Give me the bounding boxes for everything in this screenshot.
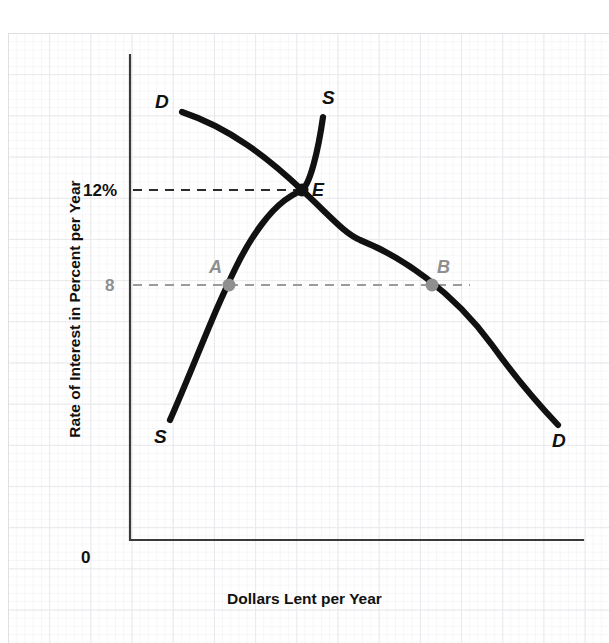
supply-curve — [170, 117, 323, 420]
demand-label-top: D — [155, 92, 169, 111]
point-a-label: A — [209, 258, 222, 276]
plot-svg — [0, 0, 609, 643]
y-tick-8: 8 — [105, 277, 114, 294]
point-b-marker — [426, 279, 439, 292]
y-axis-title: Rate of Interest in Percent per Year — [66, 159, 84, 459]
point-b-label: B — [437, 258, 450, 276]
supply-label-bottom: S — [154, 427, 167, 446]
point-a-marker — [223, 279, 236, 292]
x-axis-title: Dollars Lent per Year — [0, 590, 609, 608]
point-e-label: E — [312, 181, 324, 199]
demand-label-bottom: D — [552, 431, 566, 450]
y-tick-12-percent: 12% — [83, 182, 117, 199]
supply-demand-figure: g Rate of Interest in Percent per Year D… — [0, 0, 609, 643]
origin-label: 0 — [81, 549, 90, 566]
supply-label-top: S — [322, 88, 335, 107]
axis-lines — [130, 55, 583, 540]
point-e-marker — [296, 184, 309, 197]
